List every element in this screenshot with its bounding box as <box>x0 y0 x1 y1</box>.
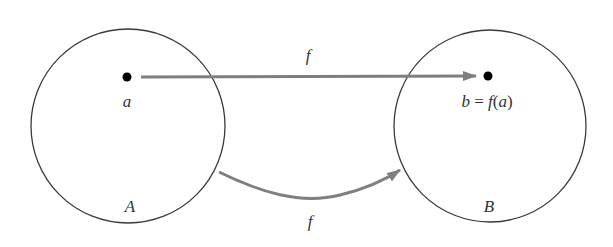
point-b <box>484 72 493 81</box>
point-b-label-a: a <box>498 92 507 111</box>
curved-arrow <box>219 170 400 198</box>
set-b-circle <box>394 30 586 222</box>
point-b-label-b: b <box>461 92 470 111</box>
set-b-label: B <box>484 197 495 216</box>
point-a <box>123 73 132 82</box>
straight-arrow <box>141 76 476 77</box>
point-b-label: b = f(a) <box>461 92 512 111</box>
function-mapping-diagram: a A B f f b = f(a) <box>0 0 613 247</box>
set-a-circle <box>31 29 225 223</box>
point-b-label-rparen: ) <box>507 92 513 111</box>
point-a-label: a <box>123 92 132 111</box>
straight-arrow-label: f <box>306 46 313 65</box>
curved-arrow-label: f <box>308 212 315 231</box>
set-a-label: A <box>124 197 136 216</box>
point-b-label-eq: = <box>470 92 488 111</box>
